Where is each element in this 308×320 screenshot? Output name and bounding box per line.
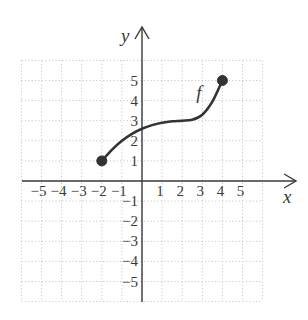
x-tick-label: 2: [176, 183, 184, 199]
y-tick-label: −3: [122, 233, 138, 249]
x-tick-label: −2: [91, 183, 107, 199]
function-graph: x y −5−4−3−2−112345 −5−4−3−2−112345 f: [0, 0, 308, 320]
x-tick-label: 1: [156, 183, 164, 199]
axes: x y: [22, 25, 296, 302]
y-tick-label: 1: [131, 153, 139, 169]
y-tick-label: −5: [122, 274, 138, 290]
y-axis-label: y: [119, 25, 130, 46]
y-tick-label: −1: [122, 193, 138, 209]
x-tick-label: −4: [51, 183, 67, 199]
x-tick-label: 4: [217, 183, 225, 199]
y-tick-label: 5: [131, 73, 139, 89]
y-tick-label: −2: [122, 213, 138, 229]
x-tick-label: −5: [31, 183, 47, 199]
endpoint-dot: [217, 76, 227, 86]
x-tick-label: 3: [197, 183, 205, 199]
y-tick-label: −4: [122, 253, 138, 269]
function-label: f: [196, 82, 204, 103]
x-axis-label: x: [282, 186, 292, 207]
x-tick-label: 5: [237, 183, 245, 199]
coordinate-plane: x y −5−4−3−2−112345 −5−4−3−2−112345 f: [0, 0, 308, 320]
x-tick-label: −3: [71, 183, 87, 199]
y-tick-label: 4: [131, 93, 139, 109]
y-tick-label: 3: [131, 113, 139, 129]
endpoint-dot: [97, 156, 107, 166]
